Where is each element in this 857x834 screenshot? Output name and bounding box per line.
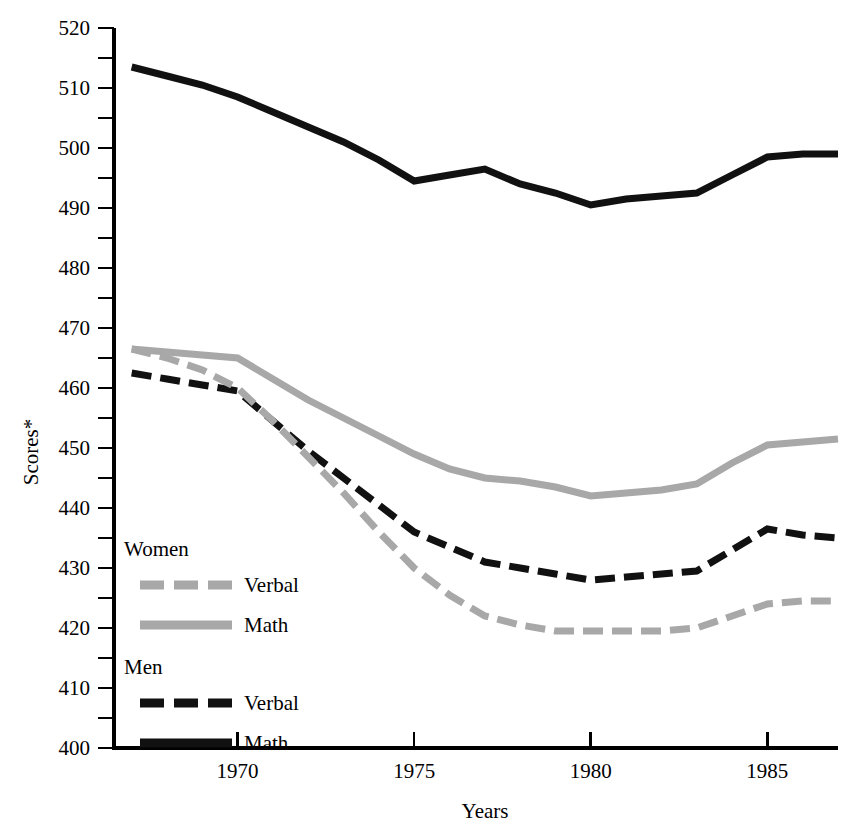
x-tick-label: 1985	[746, 759, 788, 783]
legend-group-heading: Women	[124, 537, 189, 561]
y-tick-label: 410	[59, 676, 91, 700]
y-tick-label: 520	[59, 16, 91, 40]
chart-container: Scores* Years 40041042043044045046047048…	[0, 0, 857, 834]
x-tick-label: 1975	[393, 759, 435, 783]
series-women-math	[132, 349, 838, 496]
chart-legend: WomenVerbalMathMenVerbalMath	[124, 537, 299, 755]
x-axis-ticks: 1970197519801985	[217, 732, 789, 783]
y-tick-label: 430	[59, 556, 91, 580]
y-axis-ticks: 400410420430440450460470480490500510520	[59, 16, 115, 760]
y-tick-label: 420	[59, 616, 91, 640]
legend-label-men-verbal: Verbal	[244, 691, 299, 715]
y-tick-label: 450	[59, 436, 91, 460]
y-tick-label: 400	[59, 736, 91, 760]
legend-label-men-math: Math	[244, 731, 289, 755]
y-tick-label: 460	[59, 376, 91, 400]
data-series-group	[132, 67, 838, 631]
y-tick-label: 500	[59, 136, 91, 160]
y-tick-label: 510	[59, 76, 91, 100]
sat-scores-line-chart: Scores* Years 40041042043044045046047048…	[0, 0, 857, 834]
legend-label-women-math: Math	[244, 613, 289, 637]
y-axis-title: Scores*	[19, 419, 43, 486]
x-tick-label: 1970	[217, 759, 259, 783]
y-tick-label: 490	[59, 196, 91, 220]
legend-group-heading: Men	[124, 655, 163, 679]
y-tick-label: 480	[59, 256, 91, 280]
x-tick-label: 1980	[570, 759, 612, 783]
x-axis-title: Years	[462, 799, 509, 823]
legend-label-women-verbal: Verbal	[244, 573, 299, 597]
y-tick-label: 440	[59, 496, 91, 520]
series-women-verbal	[132, 349, 838, 631]
series-men-math	[132, 67, 838, 205]
y-tick-label: 470	[59, 316, 91, 340]
